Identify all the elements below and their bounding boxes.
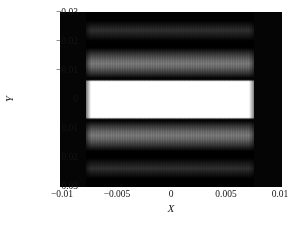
x-tick-label: −0.01 [51, 189, 73, 199]
intensity-field-image [86, 12, 254, 187]
figure-container: −0.03 −0.02 −0.01 0 0.01 0.02 0.03 −0.01… [0, 0, 296, 225]
y-tick-label: 0.02 [61, 152, 78, 162]
y-tick-label: −0.02 [56, 36, 78, 46]
x-axis-label: X [168, 203, 174, 214]
y-tick-label: 0 [73, 94, 78, 104]
y-tick-label: 0.01 [61, 123, 78, 133]
y-tick-label: −0.01 [56, 65, 78, 75]
y-tick-label: −0.03 [56, 7, 78, 17]
x-tick-label: 0.005 [215, 189, 236, 199]
x-tick-label: 0.01 [272, 189, 289, 199]
x-tick-label: 0 [169, 189, 174, 199]
x-tick-label: −0.005 [104, 189, 131, 199]
y-axis-label: Y [4, 96, 15, 102]
plot-area [60, 12, 282, 187]
